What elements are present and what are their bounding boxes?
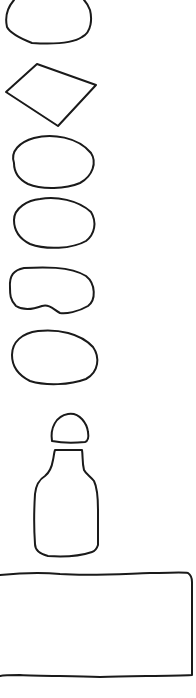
half-dome-shape: [6, 0, 91, 43]
oval-shape-2: [14, 198, 94, 248]
shapes-canvas: [0, 0, 196, 698]
bottle-cap-shape: [52, 414, 89, 443]
figure-caption: [0, 689, 196, 698]
kidney-shape: [10, 267, 94, 313]
bottle-body-shape: [34, 450, 98, 556]
rhombus-shape: [6, 64, 96, 126]
rectangle-shape: [0, 573, 192, 677]
oval-shape-1: [13, 136, 94, 188]
oval-shape-3: [12, 331, 97, 385]
